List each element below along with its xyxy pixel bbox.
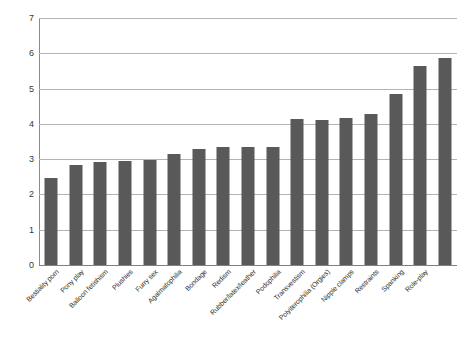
- bar-slot: [432, 18, 457, 265]
- y-tick-label: 4: [4, 119, 34, 128]
- y-tick-label: 0: [4, 261, 34, 270]
- bar-slot: [260, 18, 285, 265]
- bar-slot: [236, 18, 261, 265]
- x-axis-tick-labels: Bestiality pornPony playBalloon fetishis…: [39, 266, 457, 343]
- bar-slot: [137, 18, 162, 265]
- bar[interactable]: [69, 165, 82, 265]
- bar[interactable]: [291, 119, 304, 265]
- y-tick-label: 1: [4, 225, 34, 234]
- bar-slot: [334, 18, 359, 265]
- x-tick-label: Spanking: [379, 268, 404, 293]
- bar[interactable]: [45, 178, 58, 265]
- bar[interactable]: [266, 147, 279, 265]
- bar[interactable]: [340, 118, 353, 265]
- y-tick-label: 3: [4, 155, 34, 164]
- bar[interactable]: [94, 162, 107, 265]
- bar-slot: [383, 18, 408, 265]
- x-tick-label: Redism: [211, 268, 232, 289]
- bar-slot: [187, 18, 212, 265]
- bar[interactable]: [315, 120, 328, 265]
- bar[interactable]: [414, 66, 427, 265]
- bar[interactable]: [143, 160, 156, 265]
- bar-slot: [64, 18, 89, 265]
- bar-series: [39, 18, 457, 265]
- bar[interactable]: [192, 149, 205, 265]
- bar-slot: [309, 18, 334, 265]
- bar[interactable]: [241, 147, 254, 265]
- x-tick-label: Bestiality porn: [25, 268, 60, 303]
- x-tick-label: Restraints: [353, 268, 380, 295]
- bar-slot: [88, 18, 113, 265]
- bar-slot: [359, 18, 384, 265]
- y-tick-label: 5: [4, 84, 34, 93]
- bar-slot: [211, 18, 236, 265]
- x-tick-label: Plushies: [111, 268, 134, 291]
- bar-slot: [162, 18, 187, 265]
- bar-slot: [113, 18, 138, 265]
- x-tick-label: Rubber/latex/leather: [209, 268, 257, 316]
- y-tick-label: 2: [4, 190, 34, 199]
- bar[interactable]: [168, 154, 181, 266]
- bar[interactable]: [438, 58, 451, 265]
- bar[interactable]: [119, 161, 132, 265]
- bar[interactable]: [217, 147, 230, 265]
- y-axis-tick-labels: 01234567: [0, 18, 34, 265]
- bar[interactable]: [389, 94, 402, 265]
- y-tick-label: 7: [4, 14, 34, 23]
- bar[interactable]: [364, 114, 377, 265]
- bar-slot: [285, 18, 310, 265]
- bar-chart: 01234567 Bestiality pornPony playBalloon…: [0, 0, 464, 343]
- y-tick-label: 6: [4, 49, 34, 58]
- x-tick-label: Bondage: [183, 268, 207, 292]
- bar-slot: [39, 18, 64, 265]
- x-tick-label: Role-play: [404, 268, 429, 293]
- bar-slot: [408, 18, 433, 265]
